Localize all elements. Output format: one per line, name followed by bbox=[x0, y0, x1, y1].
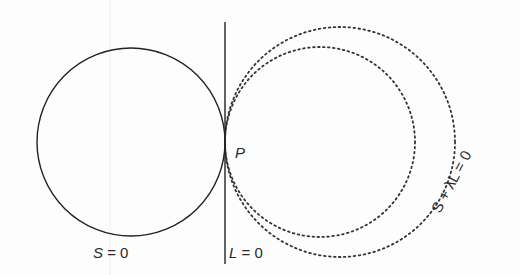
family-circle-inner bbox=[225, 47, 415, 237]
diagram-canvas: P S = 0 L = 0 S + λL = 0 bbox=[0, 0, 520, 275]
circle-s-label: S = 0 bbox=[93, 244, 128, 261]
line-l-label: L = 0 bbox=[229, 244, 263, 261]
circle-s bbox=[37, 48, 225, 236]
family-circle-outer bbox=[225, 27, 455, 257]
point-p-label: P bbox=[235, 144, 245, 161]
family-label: S + λL = 0 bbox=[428, 148, 475, 216]
family-of-circles-diagram: P S = 0 L = 0 S + λL = 0 bbox=[0, 0, 520, 275]
